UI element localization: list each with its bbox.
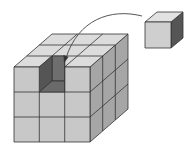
hole-back-wall <box>52 56 65 81</box>
cube-diagram <box>0 0 195 149</box>
small-cube-front-face <box>145 22 171 48</box>
detached-cube <box>145 12 183 48</box>
